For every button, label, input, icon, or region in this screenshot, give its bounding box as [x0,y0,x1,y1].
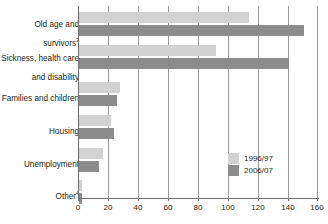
category-label-line1: Sickness, health care [1,54,79,63]
bar-1996-other [79,180,82,191]
bar-2006-old-age [79,25,304,36]
x-tick-20 [108,198,109,201]
x-tick-label-160: 160 [302,203,328,213]
x-tick-100 [228,198,229,201]
bar-2006-housing [79,128,114,139]
category-label-housing: Housing [0,117,79,136]
category-label-families: Families and children [0,84,79,103]
x-tick-80 [198,198,199,201]
bar-2006-sickness [79,58,289,69]
category-label-line1: Families and children [2,94,79,103]
x-tick-0 [78,198,79,201]
legend-item-2006-07: 2006/07 [228,165,296,176]
category-label-line1: Other [56,192,76,201]
category-label-line1: Old age and [34,20,79,29]
legend-item-1996-97: 1996/97 [228,153,296,164]
bar-1996-sickness [79,45,216,56]
x-tick-160 [317,198,318,201]
bar-2006-unemployment [79,161,99,172]
bar-1996-old-age [79,12,249,23]
category-label-line2: and disability [32,73,79,82]
x-tick-label-40: 40 [123,203,153,213]
x-tick-label-120: 120 [243,203,273,213]
x-tick-40 [138,198,139,201]
x-tick-60 [168,198,169,201]
category-label-other: Other4 [0,182,79,201]
legend-label-1996-97: 1996/97 [244,153,273,164]
x-tick-label-100: 100 [213,203,243,213]
gridline-160 [317,6,318,198]
category-label-line1: Unemployment [24,160,79,169]
category-label-unemployment: Unemployment [0,150,79,169]
legend-label-2006-07: 2006/07 [244,165,273,176]
x-tick-label-80: 80 [183,203,213,213]
x-tick-120 [258,198,259,201]
legend: 1996/97 2006/07 [228,153,296,177]
bar-2006-families [79,95,117,106]
category-label-line1: Housing [49,127,79,136]
bar-1996-unemployment [79,148,103,159]
category-label-sickness: Sickness, health care and disability [0,44,79,82]
x-tick-label-140: 140 [273,203,303,213]
legend-swatch-icon-2006-07 [228,165,239,176]
bar-1996-housing [79,115,111,126]
x-tick-label-60: 60 [153,203,183,213]
x-tick-label-20: 20 [93,203,123,213]
x-tick-label-0: 0 [63,203,93,213]
bar-1996-families [79,82,120,93]
legend-swatch-icon-1996-97 [228,153,239,164]
category-label-old-age: Old age and survivors3 [0,10,79,48]
x-tick-140 [288,198,289,201]
